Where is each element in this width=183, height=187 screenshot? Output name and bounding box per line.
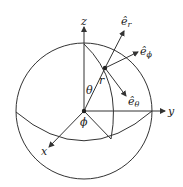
- spherical-coordinates-diagram: z y x θ r ϕ êr êϕ êθ: [0, 0, 183, 187]
- phi-label: ϕ: [80, 116, 88, 129]
- e-theta-label: êθ: [128, 95, 140, 109]
- e-phi-label: êϕ: [140, 45, 153, 59]
- x-axis: [49, 111, 84, 147]
- e-r-vector: [105, 31, 124, 68]
- y-label: y: [167, 105, 175, 118]
- origin-point: [82, 109, 86, 113]
- x-label: x: [41, 145, 48, 158]
- e-r-label: êr: [121, 15, 133, 29]
- point-p: [103, 66, 107, 70]
- projection-line: [84, 111, 111, 139]
- r-label: r: [99, 74, 105, 87]
- z-label: z: [80, 15, 87, 28]
- theta-label: θ: [86, 84, 93, 97]
